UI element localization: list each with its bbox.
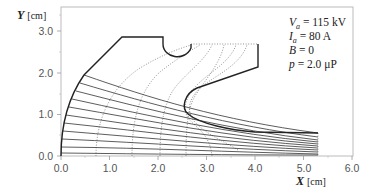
svg-text:Ia = 80 A: Ia = 80 A (288, 30, 332, 45)
minor-ticks (59, 15, 328, 158)
equipotential-lines (96, 44, 318, 156)
svg-text:B = 0: B = 0 (289, 44, 314, 56)
parameter-annotation: Va = 115 kV Ia = 80 A B = 0 p = 2.0 μP (288, 16, 347, 71)
svg-text:Va = 115 kV: Va = 115 kV (289, 16, 347, 31)
x-tick-1: 1.0 (103, 162, 118, 174)
x-axis-label: X [cm] (295, 174, 326, 188)
figure: 0.0 1.0 2.0 3.0 4.0 5.0 6.0 0.0 1.0 2.0 … (0, 0, 374, 192)
x-tick-5: 5.0 (297, 162, 312, 174)
y-tick-3: 3.0 (38, 25, 53, 37)
x-tick-3: 3.0 (200, 162, 215, 174)
plot-svg: 0.0 1.0 2.0 3.0 4.0 5.0 6.0 0.0 1.0 2.0 … (0, 0, 374, 192)
x-tick-2: 2.0 (151, 162, 166, 174)
svg-text:p = 2.0 μP: p = 2.0 μP (288, 58, 337, 71)
y-tick-2: 2.0 (38, 67, 53, 79)
x-tick-4: 4.0 (248, 162, 263, 174)
y-tick-0: 0.0 (38, 150, 53, 162)
x-tick-0: 0.0 (54, 162, 69, 174)
y-axis-label: Y [cm] (17, 8, 46, 22)
y-tick-1: 1.0 (38, 108, 53, 120)
x-tick-6: 6.0 (345, 162, 360, 174)
